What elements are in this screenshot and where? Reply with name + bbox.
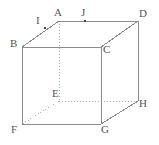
point-marker-i [44, 27, 47, 30]
vertex-label-h: H [139, 98, 147, 109]
hidden-edge-group [22, 21, 138, 124]
vertex-label-g: G [101, 124, 109, 135]
cube-figure: ABCDEFGHIJ [0, 0, 159, 145]
edge-ab [22, 21, 59, 47]
vertex-label-f: F [11, 124, 17, 135]
solid-edge-group [22, 21, 138, 124]
point-marker-j [84, 20, 87, 23]
edge-gh [101, 101, 138, 124]
vertex-label-e: E [52, 88, 59, 99]
point-label-i: I [36, 15, 40, 26]
vertex-label-a: A [54, 7, 62, 18]
point-label-j: J [81, 7, 85, 18]
cube-drawing [0, 0, 159, 145]
hidden-edge-ef [22, 101, 59, 124]
vertex-label-b: B [10, 38, 17, 49]
vertex-label-d: D [139, 8, 147, 19]
vertex-label-c: C [103, 44, 110, 55]
